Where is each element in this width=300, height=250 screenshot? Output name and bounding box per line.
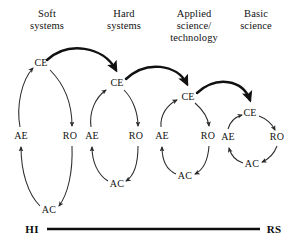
- arc-ae-to-ce: [19, 68, 33, 127]
- column-title-hard-systems: Hard systems: [84, 8, 164, 32]
- arc-ce-to-ro: [195, 103, 209, 126]
- arc-ac-to-ae: [92, 147, 108, 181]
- node-hard-systems-ac: AC: [110, 179, 124, 189]
- diagram-canvas: Soft systems Hard systems Applied scienc…: [0, 0, 300, 250]
- node-basic-science-ae: AE: [221, 132, 235, 142]
- node-soft-systems-ce: CE: [34, 58, 47, 68]
- transition-applied-to-basic: [197, 82, 250, 100]
- arc-ac-to-ae: [21, 147, 40, 206]
- axis-label-right: RS: [267, 224, 282, 235]
- node-soft-systems-ac: AC: [42, 205, 56, 215]
- axis-label-left: HI: [25, 224, 38, 235]
- arc-ce-to-ro: [50, 70, 72, 126]
- arc-ae-to-ce: [161, 100, 177, 127]
- transition-soft-to-hard: [47, 48, 116, 70]
- node-basic-science-ac: AC: [245, 159, 259, 169]
- node-applied-science-ro: RO: [201, 131, 215, 141]
- arc-ac-to-ae: [229, 148, 243, 163]
- node-basic-science-ro: RO: [270, 132, 284, 142]
- node-hard-systems-ro: RO: [129, 131, 143, 141]
- arc-ro-to-ac: [262, 146, 277, 162]
- node-applied-science-ac: AC: [178, 171, 192, 181]
- arc-ro-to-ac: [195, 146, 209, 174]
- column-title-basic-science: Basic science: [216, 8, 296, 32]
- node-soft-systems-ro: RO: [63, 131, 77, 141]
- arc-ro-to-ac: [126, 146, 138, 181]
- node-hard-systems-ce: CE: [110, 78, 123, 88]
- arc-ro-to-ac: [59, 146, 72, 206]
- arc-ae-to-ce: [91, 90, 106, 127]
- arc-ce-to-ro: [259, 116, 275, 130]
- node-applied-science-ce: CE: [181, 92, 194, 102]
- node-applied-science-ae: AE: [155, 131, 169, 141]
- transition-arcs: [47, 48, 250, 100]
- node-hard-systems-ae: AE: [85, 131, 99, 141]
- arc-ac-to-ae: [162, 147, 176, 174]
- arc-ce-to-ro: [124, 90, 138, 126]
- node-soft-systems-ae: AE: [14, 131, 28, 141]
- arc-ae-to-ce: [228, 115, 242, 129]
- node-basic-science-ce: CE: [243, 108, 256, 118]
- column-title-soft-systems: Soft systems: [7, 8, 87, 32]
- transition-hard-to-applied: [126, 67, 187, 84]
